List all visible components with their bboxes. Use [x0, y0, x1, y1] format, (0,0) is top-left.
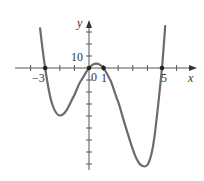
tick-label-y10: 10 — [71, 50, 83, 64]
tick-label-0: 0 — [91, 70, 97, 84]
function-graph: −3 0 1 5 10 x y — [0, 0, 204, 181]
zero-point-neg3 — [43, 66, 48, 71]
y-axis-arrow-icon — [86, 20, 92, 28]
function-curve — [40, 26, 165, 167]
y-axis-label: y — [76, 16, 83, 30]
tick-label-neg3: −3 — [32, 71, 45, 85]
tick-label-5: 5 — [161, 71, 167, 85]
x-axis-label: x — [187, 71, 194, 85]
tick-label-1: 1 — [101, 71, 107, 85]
zero-point-5 — [160, 66, 165, 71]
zero-point-1 — [101, 66, 106, 71]
